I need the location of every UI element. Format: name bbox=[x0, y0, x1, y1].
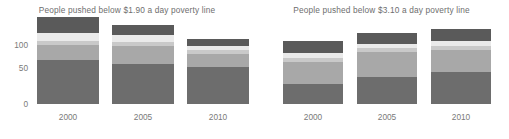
bar-2010[interactable] bbox=[187, 39, 249, 104]
bar-segment-series-1 bbox=[112, 64, 174, 104]
bar-segment-series-2 bbox=[187, 54, 249, 68]
x-axis-label-2005: 2005 bbox=[112, 112, 174, 122]
plot-area-right: 2000 2005 2010 bbox=[254, 0, 509, 139]
bar-2005[interactable] bbox=[357, 33, 417, 104]
bar-segment-series-5 bbox=[283, 41, 343, 53]
y-tick-label-0: 0 bbox=[2, 99, 28, 109]
bar-segment-series-5 bbox=[112, 25, 174, 35]
bar-segment-series-2 bbox=[112, 46, 174, 64]
bar-segment-series-1 bbox=[357, 77, 417, 104]
bar-segment-series-5 bbox=[37, 17, 99, 33]
bar-segment-series-4 bbox=[37, 33, 99, 41]
bar-segment-series-2 bbox=[283, 62, 343, 84]
bar-2000[interactable] bbox=[37, 17, 99, 104]
chart-figure: People pushed below $1.90 a day poverty … bbox=[0, 0, 509, 139]
bar-2000[interactable] bbox=[283, 41, 343, 104]
y-tick-label-100: 100 bbox=[2, 40, 28, 50]
bar-segment-series-5 bbox=[187, 39, 249, 46]
chart-panel-right: People pushed below $3.10 a day poverty … bbox=[254, 0, 509, 139]
bar-segment-series-5 bbox=[431, 29, 491, 41]
y-tick-label-50: 50 bbox=[2, 63, 28, 73]
bar-segment-series-1 bbox=[187, 67, 249, 104]
bar-segment-series-4 bbox=[112, 35, 174, 42]
bar-2010[interactable] bbox=[431, 29, 491, 104]
bar-segment-series-1 bbox=[431, 72, 491, 104]
x-axis-label-2010: 2010 bbox=[187, 112, 249, 122]
x-axis-label-2010: 2010 bbox=[431, 112, 491, 122]
x-axis-label-2005: 2005 bbox=[357, 112, 417, 122]
plot-area-left: 100 50 0 2000 2005 2010 bbox=[0, 0, 254, 139]
bar-segment-series-5 bbox=[357, 33, 417, 45]
chart-panel-left: People pushed below $1.90 a day poverty … bbox=[0, 0, 254, 139]
bar-segment-series-2 bbox=[357, 52, 417, 77]
bar-segment-series-2 bbox=[431, 50, 491, 72]
bar-segment-series-2 bbox=[37, 45, 99, 60]
bar-segment-series-1 bbox=[283, 84, 343, 104]
bar-segment-series-1 bbox=[37, 60, 99, 104]
x-axis-label-2000: 2000 bbox=[283, 112, 343, 122]
x-axis-label-2000: 2000 bbox=[37, 112, 99, 122]
bar-2005[interactable] bbox=[112, 25, 174, 104]
